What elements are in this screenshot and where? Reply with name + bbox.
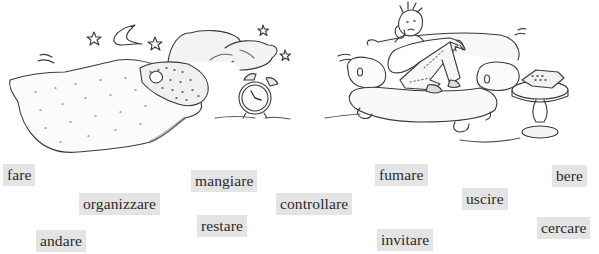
word-bere[interactable]: bere [552, 165, 587, 187]
word-fare[interactable]: fare [3, 164, 35, 186]
word-andare[interactable]: andare [36, 230, 86, 252]
word-cercare[interactable]: cercare [537, 217, 590, 239]
word-mangiare[interactable]: mangiare [191, 170, 257, 192]
star-icon [280, 50, 291, 61]
word-restare[interactable]: restare [197, 215, 247, 237]
star-icon [87, 32, 101, 45]
man-head [399, 10, 423, 36]
sleeping-in-bed-illustration [0, 0, 300, 160]
side-table [512, 81, 568, 138]
word-invitare[interactable]: invitare [377, 229, 433, 251]
moon-icon [114, 25, 142, 45]
word-fumare[interactable]: fumare [375, 164, 428, 186]
star-icon [148, 37, 162, 50]
man-on-sofa-illustration [300, 0, 599, 160]
vocabulary-exercise: fare organizzare andare mangiare restare… [0, 0, 599, 254]
word-controllare[interactable]: controllare [276, 193, 352, 215]
word-organizzare[interactable]: organizzare [79, 193, 160, 215]
alarm-clock-icon [239, 74, 278, 118]
word-uscire[interactable]: uscire [462, 188, 508, 210]
star-icon [258, 25, 269, 36]
